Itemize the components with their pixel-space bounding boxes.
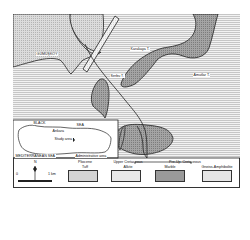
label-karakaya: Karakaya T. bbox=[130, 47, 150, 51]
legend-swatch-marble bbox=[155, 170, 185, 182]
label-study-area: Study area bbox=[54, 137, 73, 141]
label-gumuskoy: GÜMÜŞKÖY bbox=[36, 52, 58, 56]
legend-upper-cretaceous-group: Upper Cretaceous bbox=[108, 160, 148, 164]
legend-pliocene-unit: Tuff bbox=[70, 165, 100, 169]
label-black-sea: BLACK bbox=[33, 121, 46, 125]
label-serbu: Serbu T. bbox=[110, 74, 125, 78]
legend-swatch-alkite bbox=[111, 170, 141, 182]
label-sea: SEA bbox=[76, 123, 84, 127]
label-mediterranean: MEDITERRANEAN SEA bbox=[15, 154, 56, 158]
legend-north: N bbox=[34, 160, 37, 164]
legend-scale-end: 1 km bbox=[48, 172, 56, 176]
label-admin-area: Administrative area bbox=[75, 154, 107, 158]
legend-gneiss-unit: Gneiss-Amphibolite bbox=[197, 165, 237, 169]
legend-swatch-gneiss bbox=[202, 170, 232, 182]
legend-marble-unit: Marble bbox=[155, 165, 185, 169]
legend-pliocene-group: Pliocene bbox=[70, 160, 100, 164]
label-ankara: Ankara bbox=[52, 129, 65, 133]
legend-swatch-tuff bbox=[68, 170, 98, 182]
legend-upper-cretaceous-unit: Alkite bbox=[108, 165, 148, 169]
label-amutlar: Amutlar T. bbox=[193, 73, 210, 77]
legend-pre-cretaceous-group: Pre-Up. Cretaceous bbox=[155, 160, 215, 164]
legend-scale-start: 0 bbox=[16, 172, 18, 176]
scale-bar bbox=[18, 180, 52, 182]
